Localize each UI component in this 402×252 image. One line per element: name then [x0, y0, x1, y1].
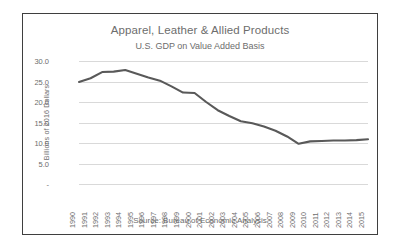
y-axis-tick-label: 5.0: [0, 159, 49, 168]
y-axis-tick-label: 15.0: [0, 118, 49, 127]
chart-subtitle: U.S. GDP on Value Added Basis: [23, 41, 377, 51]
y-axis-tick-label: 20.0: [0, 98, 49, 107]
source-note: Source: Bureau of Economic Analysis: [23, 216, 377, 225]
gridline: [79, 184, 368, 185]
y-axis-tick-label: -: [0, 180, 49, 189]
chart-title: Apparel, Leather & Allied Products: [23, 24, 377, 36]
y-axis-tick-label: 10.0: [0, 139, 49, 148]
y-axis-tick-label: 30.0: [0, 57, 49, 66]
series-line: [79, 61, 368, 184]
plot-area: [79, 61, 368, 184]
chart-container: Apparel, Leather & Allied Products U.S. …: [22, 13, 378, 235]
y-axis-tick-label: 25.0: [0, 77, 49, 86]
